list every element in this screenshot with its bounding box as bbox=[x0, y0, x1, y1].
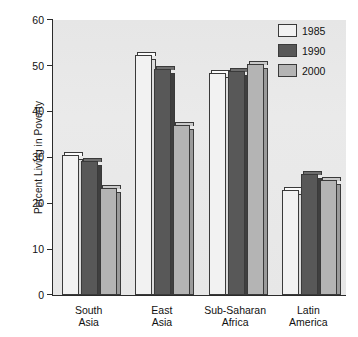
y-tick-mark bbox=[47, 19, 53, 20]
bar-side-face bbox=[264, 68, 268, 295]
bar-2000-3 bbox=[320, 180, 337, 295]
y-tick-mark bbox=[47, 294, 53, 295]
legend-swatch-icon bbox=[278, 44, 297, 57]
y-tick-mark bbox=[47, 65, 53, 66]
poverty-bar-chart: Percent Living in Poverty 60 50 40 30 20… bbox=[0, 0, 358, 337]
legend-item-2000: 2000 bbox=[278, 62, 348, 79]
y-tick-label: 0 bbox=[8, 289, 44, 301]
legend-swatch-icon bbox=[278, 64, 297, 77]
bar-1985-2 bbox=[209, 73, 226, 295]
legend-item-1985: 1985 bbox=[278, 22, 348, 39]
y-tick-mark bbox=[47, 111, 53, 112]
y-tick-mark bbox=[47, 157, 53, 158]
y-tick-mark bbox=[47, 203, 53, 204]
bar-1990-1 bbox=[154, 69, 171, 295]
y-tick-label: 60 bbox=[8, 14, 44, 26]
legend-label: 2000 bbox=[302, 65, 325, 77]
bar-side-face bbox=[337, 184, 341, 295]
legend: 1985 1990 2000 bbox=[278, 22, 348, 82]
bar-1990-0 bbox=[81, 161, 98, 295]
legend-item-1990: 1990 bbox=[278, 42, 348, 59]
x-category-label-line2: America bbox=[260, 316, 356, 328]
bar-1990-3 bbox=[301, 174, 318, 295]
bar-1985-3 bbox=[282, 190, 299, 295]
legend-label: 1990 bbox=[302, 45, 325, 57]
bar-2000-0 bbox=[100, 188, 117, 295]
legend-label: 1985 bbox=[302, 25, 325, 37]
bar-2000-2 bbox=[247, 64, 264, 295]
legend-swatch-icon bbox=[278, 24, 297, 37]
y-axis-title: Percent Living in Poverty bbox=[33, 58, 44, 258]
bar-1985-0 bbox=[62, 155, 79, 295]
bar-1990-2 bbox=[228, 71, 245, 295]
y-tick-mark bbox=[47, 249, 53, 250]
bar-side-face bbox=[190, 129, 194, 295]
x-category-label-line1: Latin bbox=[260, 304, 356, 316]
bar-2000-1 bbox=[173, 125, 190, 295]
bar-1985-1 bbox=[135, 55, 152, 295]
x-category-label: LatinAmerica bbox=[260, 304, 356, 328]
bar-side-face bbox=[117, 192, 121, 295]
